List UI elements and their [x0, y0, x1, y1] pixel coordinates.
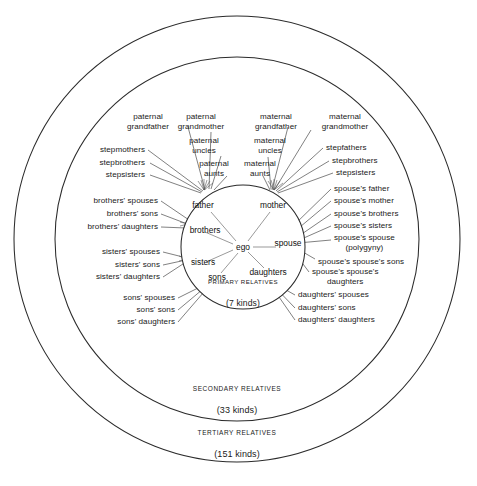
label-stepmothers: stepmothers [100, 145, 145, 155]
label-maternal-uncles: maternal uncles [254, 136, 286, 155]
label-sisters-spouses: sisters' spouses [102, 247, 160, 257]
label-brothers-spouses: brothers' spouses [94, 196, 158, 206]
tertiary-relatives-count: (151 kinds) [198, 449, 277, 460]
primary-relatives-count: (7 kinds) [208, 298, 278, 309]
label-spouses-spouses-sons: spouse's spouse's sons [318, 257, 404, 267]
label-daughters-daughters: daughters' daughters [298, 315, 375, 325]
primary-relatives-caption: PRIMARY RELATIVES (7 kinds) [208, 265, 278, 320]
label-spouses-father: spouse's father [334, 184, 389, 194]
label-spouses-sisters: spouse's sisters [334, 221, 392, 231]
label-paternal-grandmother: paternal grandmother [178, 112, 224, 131]
spoke-fan-father [198, 179, 213, 190]
label-sons-daughters: sons' daughters [117, 317, 175, 327]
label-daughters-spouses: daughters' spouses [298, 290, 369, 300]
label-brothers-sons: brothers' sons [107, 209, 158, 219]
label-sons-spouses: sons' spouses [123, 293, 175, 303]
label-sisters-sons: sisters' sons [115, 260, 160, 270]
label-maternal-grandfather: maternal grandfather [255, 112, 297, 131]
label-brothers-daughters: brothers' daughters [88, 222, 158, 232]
primary-label-spouse: spouse [274, 238, 301, 248]
ego-label: ego [236, 242, 250, 252]
label-maternal-aunts: maternal aunts [244, 159, 276, 178]
label-paternal-grandfather: paternal grandfather [127, 112, 169, 131]
label-daughters-sons: daughters' sons [298, 303, 356, 313]
tertiary-relatives-caption: TERTIARY RELATIVES (151 kinds) [198, 416, 277, 471]
label-spouses-spouses-daughters: spouse's spouse's daughters [312, 267, 378, 286]
label-stepsisters-paternal: stepsisters [106, 170, 145, 180]
tertiary-relatives-title: TERTIARY RELATIVES [198, 427, 277, 438]
primary-relatives-title: PRIMARY RELATIVES [208, 276, 278, 287]
label-stepsisters-maternal: stepsisters [336, 168, 375, 178]
label-maternal-grandmother: maternal grandmother [322, 112, 368, 131]
label-paternal-aunts: paternal aunts [199, 159, 229, 178]
primary-label-mother: mother [260, 200, 286, 210]
kinship-diagram: ego father mother brothers spouse sister… [0, 0, 477, 486]
label-spouses-mother: spouse's mother [334, 196, 394, 206]
primary-label-father: father [192, 200, 213, 210]
label-stepbrothers-maternal: stepbrothers [332, 156, 378, 166]
secondary-relatives-count: (33 kinds) [193, 405, 281, 416]
secondary-relatives-title: SECONDARY RELATIVES [193, 383, 281, 394]
primary-label-brothers: brothers [190, 225, 221, 235]
label-stepfathers: stepfathers [326, 143, 367, 153]
label-paternal-uncles: paternal uncles [189, 136, 219, 155]
label-stepbrothers-paternal: stepbrothers [99, 158, 145, 168]
label-sons-sons: sons' sons [137, 305, 176, 315]
label-spouses-brothers: spouse's brothers [334, 209, 398, 219]
label-spouses-spouse-polygyny: spouse's spouse (polygyny) [334, 233, 395, 252]
label-sisters-daughters: sisters' daughters [96, 272, 160, 282]
